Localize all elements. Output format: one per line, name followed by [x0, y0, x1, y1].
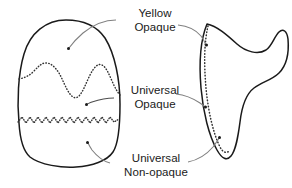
label-universal-opaque: Universal Opaque	[115, 84, 195, 111]
label-universal-nonopaque: Universal Non-opaque	[108, 152, 204, 179]
label-universal-opaque-line2: Opaque	[115, 98, 195, 112]
tooth-facial-outline	[18, 20, 120, 167]
tooth-proximal-outline	[200, 24, 288, 159]
label-universal-nonopaque-line1: Universal	[108, 152, 204, 166]
label-yellow-opaque-line2: Opaque	[117, 21, 193, 35]
label-yellow-opaque: Yellow Opaque	[117, 7, 193, 34]
figure-canvas: Yellow Opaque Universal Opaque Universal…	[0, 0, 292, 188]
label-universal-opaque-line1: Universal	[115, 84, 195, 98]
label-universal-nonopaque-line2: Non-opaque	[108, 166, 204, 180]
label-yellow-opaque-line1: Yellow	[117, 7, 193, 21]
